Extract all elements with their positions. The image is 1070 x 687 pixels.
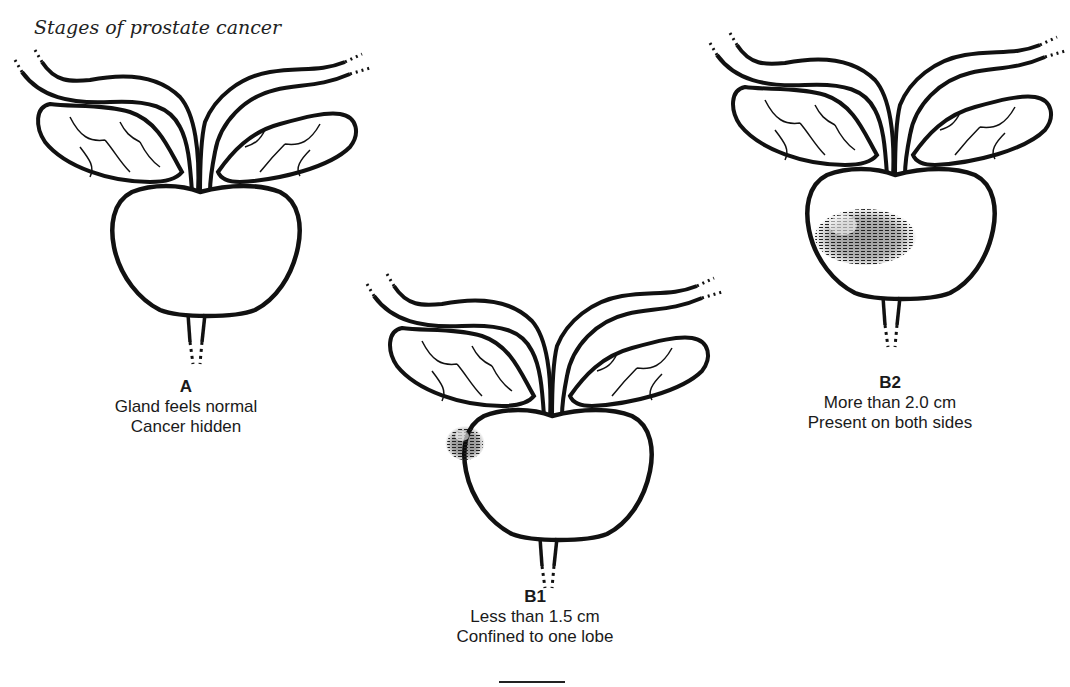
stage-label: B2	[770, 373, 1010, 393]
figure-stage-b2	[705, 25, 1070, 355]
caption-stage-b2: B2 More than 2.0 cm Present on both side…	[770, 373, 1010, 433]
figure-stage-a	[10, 42, 380, 372]
divider-rule	[499, 681, 565, 683]
stage-label: A	[66, 377, 306, 397]
figure-stage-b1	[362, 266, 732, 596]
caption-line: Present on both sides	[770, 413, 1010, 433]
stage-label: B1	[415, 587, 655, 607]
caption-line: More than 2.0 cm	[770, 393, 1010, 413]
caption-stage-b1: B1 Less than 1.5 cm Confined to one lobe	[415, 587, 655, 647]
caption-line: Cancer hidden	[66, 417, 306, 437]
caption-line: Less than 1.5 cm	[415, 607, 655, 627]
caption-line: Gland feels normal	[66, 397, 306, 417]
prostate-gland-illustration	[10, 42, 380, 372]
tumor-spot	[445, 424, 485, 460]
caption-line: Confined to one lobe	[415, 627, 655, 647]
caption-stage-a: A Gland feels normal Cancer hidden	[66, 377, 306, 437]
page-title: Stages of prostate cancer	[34, 16, 281, 38]
prostate-gland-illustration	[362, 266, 732, 596]
prostate-gland-illustration	[705, 25, 1070, 355]
tumor-area	[813, 205, 917, 265]
